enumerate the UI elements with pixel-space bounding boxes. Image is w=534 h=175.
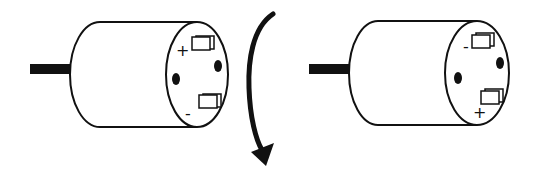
rotation-arrow-icon [249,14,274,166]
left-shaft [30,64,72,74]
right-bottom-polarity: + [473,103,486,122]
right-terminal-bottom [481,89,503,104]
left-top-polarity: + [176,41,189,60]
left-terminal-top [192,36,214,50]
right-mount-hole-2 [496,57,504,69]
left-bottom-polarity: - [185,104,191,123]
left-mount-hole-1 [172,73,180,85]
left-terminal-bottom [199,94,221,108]
left-mount-hole-2 [214,60,222,72]
right-shaft [309,64,351,74]
right-motor: - + [309,21,509,125]
right-top-polarity: - [463,37,469,56]
right-mount-hole-1 [454,72,462,84]
right-terminal-top [472,33,494,48]
left-motor: + - [30,22,228,127]
motor-rotation-diagram: + - - + [0,0,534,175]
